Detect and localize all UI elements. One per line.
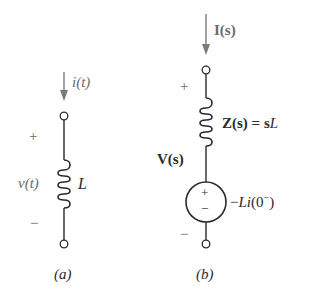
voltage-label-a: v(t) [18,176,39,191]
current-label-b: I(s) [214,23,236,38]
plus-sign-a: + [29,129,37,144]
impedance-label: Z(s) = sL [222,116,278,131]
circuit-drawing [0,0,328,300]
impedance-label-L: L [270,115,278,131]
current-arrow-a [60,72,68,101]
caption-b: (b) [196,267,214,282]
circuit-a [58,72,70,248]
inductor-s-domain-diagram: i(t) + v(t) L − (a) I(s) + V(s) − Z(s) =… [0,0,328,300]
caption-a: (a) [54,267,72,282]
source-minus: − [201,202,208,215]
impedance-label-lhs: Z(s) = s [222,115,270,131]
voltage-label-b: V(s) [157,152,184,167]
current-label-b-arg: (s) [220,22,236,38]
inductor-coil-a [58,160,70,208]
minus-sign-b: − [180,227,188,242]
terminal-bottom-a [60,240,68,248]
terminal-top-a [60,112,68,120]
terminal-top-b [202,66,210,74]
inductor-coil-b [200,98,212,146]
voltage-label-b-symbol: V [157,151,168,167]
inductor-label-a: L [78,176,87,192]
terminal-bottom-b [202,240,210,248]
source-value-close: ) [269,194,274,210]
minus-sign-a: − [30,216,38,231]
current-arrow-b [202,14,210,55]
voltage-label-b-arg: (s) [168,151,184,167]
source-plus: + [201,186,208,199]
source-value-label: −Li(0−) [230,195,274,210]
source-value-Li: Li [238,194,251,210]
plus-sign-b: + [180,79,188,94]
source-value-arg: (0 [251,194,264,210]
current-label-a: i(t) [72,75,90,90]
